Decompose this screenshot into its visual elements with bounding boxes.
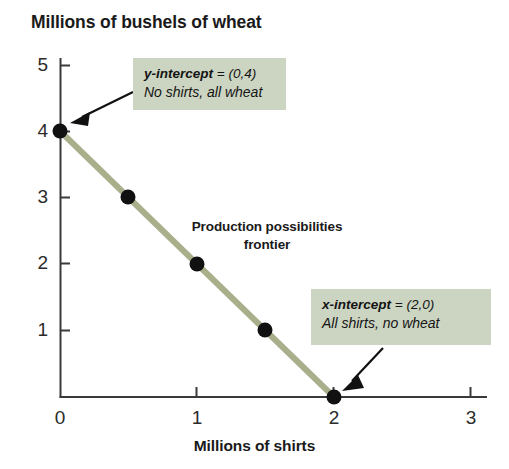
x-axis-title: Millions of shirts bbox=[0, 437, 509, 455]
x-intercept-equation: = (2,0) bbox=[395, 297, 434, 312]
frontier-label-line1: Production possibilities bbox=[188, 218, 346, 236]
y-intercept-callout: y-intercept = (0,4) No shirts, all wheat bbox=[133, 58, 286, 110]
x-intercept-callout: x-intercept = (2,0) All shirts, no wheat bbox=[311, 289, 491, 345]
x-intercept-equation-line: x-intercept = (2,0) bbox=[322, 296, 480, 314]
data-point-1-2 bbox=[190, 257, 205, 272]
data-point-0.5-3 bbox=[121, 190, 136, 205]
y-intercept-description: No shirts, all wheat bbox=[144, 83, 275, 101]
x-intercept-arrow bbox=[342, 348, 383, 391]
y-tick-label-4: 4 bbox=[20, 120, 48, 142]
y-tick-label-3: 3 bbox=[20, 186, 48, 208]
y-tick-label-1: 1 bbox=[20, 319, 48, 341]
y-intercept-term: y-intercept bbox=[144, 66, 213, 81]
data-point-2-0 bbox=[327, 390, 342, 405]
y-tick-label-2: 2 bbox=[20, 252, 48, 274]
x-intercept-term: x-intercept bbox=[322, 297, 391, 312]
y-intercept-arrow bbox=[70, 92, 133, 126]
x-tick-label-3: 3 bbox=[456, 407, 486, 429]
y-intercept-equation-line: y-intercept = (0,4) bbox=[144, 65, 275, 83]
y-tick-label-5: 5 bbox=[20, 54, 48, 76]
frontier-label: Production possibilities frontier bbox=[188, 218, 346, 254]
x-intercept-description: All shirts, no wheat bbox=[322, 314, 480, 332]
x-tick-label-2: 2 bbox=[319, 407, 349, 429]
x-tick-label-0: 0 bbox=[45, 407, 75, 429]
x-tick-label-1: 1 bbox=[182, 407, 212, 429]
data-point-1.5-1 bbox=[258, 323, 273, 338]
frontier-label-line2: frontier bbox=[188, 236, 346, 254]
y-intercept-equation: = (0,4) bbox=[217, 66, 256, 81]
ppf-figure: Millions of bushels of wheat bbox=[0, 0, 509, 469]
data-point-0-4 bbox=[53, 124, 68, 139]
